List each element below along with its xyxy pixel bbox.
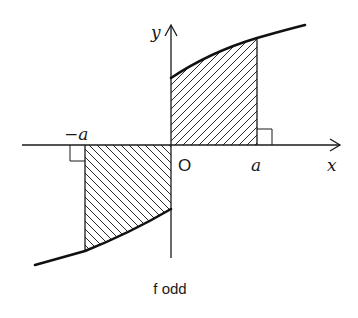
right-angle-marker-neg-a (70, 145, 85, 161)
x-axis-label: x (327, 155, 337, 175)
y-axis-label: y (150, 22, 161, 42)
diagram-caption: f odd (153, 280, 186, 297)
origin-label: O (178, 156, 191, 175)
tick-label-a: a (251, 155, 261, 175)
right-angle-marker-a (257, 129, 272, 145)
odd-function-diagram: y x O a −a f odd (0, 0, 358, 318)
tick-label-neg-a: −a (64, 124, 88, 144)
negative-hatched-region (85, 145, 171, 251)
